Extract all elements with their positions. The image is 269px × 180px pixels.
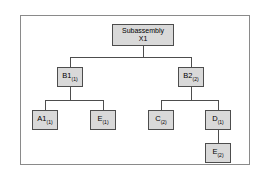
node-label: C(2)	[155, 115, 167, 125]
node-label: SubassemblyX1	[122, 27, 164, 44]
node-label: B1(1)	[62, 72, 77, 82]
node-e1[interactable]: E(1)	[90, 110, 116, 130]
node-label: E(2)	[212, 148, 223, 158]
node-label: D(1)	[212, 115, 224, 125]
node-b2[interactable]: B2(2)	[178, 67, 204, 87]
node-e2[interactable]: E(2)	[205, 143, 231, 163]
node-b1[interactable]: B1(1)	[57, 67, 83, 87]
node-d[interactable]: D(1)	[205, 110, 231, 130]
node-a1[interactable]: A1(1)	[32, 110, 58, 130]
node-label: B2(2)	[183, 72, 198, 82]
node-c[interactable]: C(2)	[148, 110, 174, 130]
node-label: A1(1)	[37, 115, 52, 125]
node-subassembly-x1[interactable]: SubassemblyX1	[112, 24, 174, 46]
node-label: E(1)	[97, 115, 108, 125]
